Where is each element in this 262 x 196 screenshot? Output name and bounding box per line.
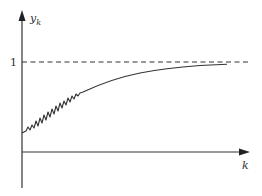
y-axis-label: yk <box>29 12 41 27</box>
chart: yk 1 k <box>0 0 262 196</box>
ytick-one-label: 1 <box>10 56 17 69</box>
x-axis-label: k <box>242 159 249 172</box>
y-axis-arrow-icon <box>19 10 26 21</box>
x-axis-arrow-icon <box>239 149 250 156</box>
response-curve <box>22 64 227 133</box>
